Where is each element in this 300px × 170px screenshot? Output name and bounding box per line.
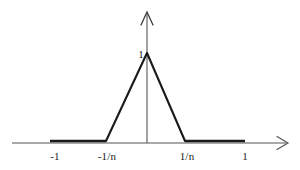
x-tick-label-one: 1 — [242, 150, 248, 162]
triangular-function-plot — [0, 0, 300, 170]
figure-container: 1 -1 -1/n 1/n 1 — [0, 0, 300, 170]
function-falling-edge — [147, 53, 185, 141]
x-tick-label-minus-one: -1 — [50, 150, 60, 162]
x-tick-label-one-over-n: 1/n — [180, 150, 195, 162]
x-tick-label-minus-one-over-n: -1/n — [98, 150, 117, 162]
function-rising-edge — [106, 53, 147, 141]
peak-height-label: 1 — [138, 48, 144, 60]
